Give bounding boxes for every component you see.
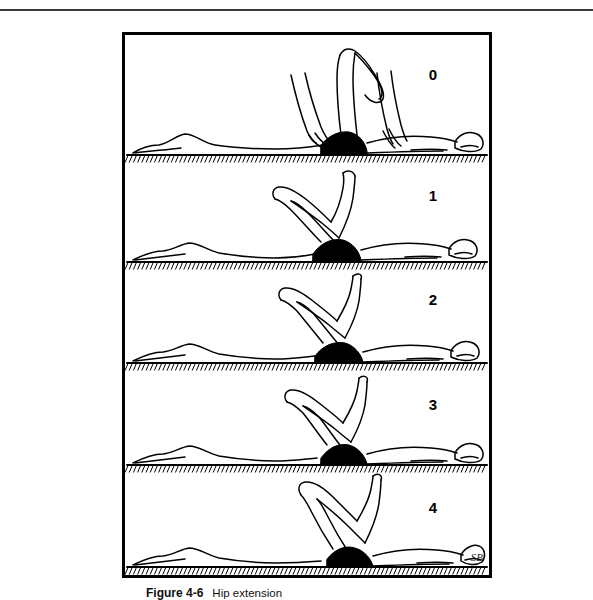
figure-panel-2: 2 xyxy=(125,273,489,373)
rating-label-2: 2 xyxy=(429,292,437,307)
figure-caption-number: Figure 4-6 xyxy=(146,586,203,600)
figure-caption: Figure 4-6Hip extension xyxy=(146,586,282,600)
floor-hatching xyxy=(125,466,485,473)
floor-hatching xyxy=(125,263,485,270)
floor-hatching xyxy=(125,156,485,163)
page-top-rule xyxy=(0,9,593,11)
rating-label-4: 4 xyxy=(429,500,437,515)
panel-4-illustration xyxy=(125,473,489,575)
floor-hatching xyxy=(125,568,485,575)
rating-label-1: 1 xyxy=(429,188,437,203)
figure-panel-1: 1 xyxy=(125,168,489,273)
figure-panel-4: 4 xyxy=(125,473,489,575)
figure-panel-0: 0 xyxy=(125,35,489,168)
rating-label-0: 0 xyxy=(429,67,437,82)
artist-signature: SB xyxy=(471,551,483,563)
rating-label-3: 3 xyxy=(429,397,437,412)
figure-frame: 0 xyxy=(122,32,492,578)
figure-panel-3: 3 xyxy=(125,373,489,473)
figure-caption-text: Hip extension xyxy=(212,587,282,599)
panel-2-illustration xyxy=(125,273,489,373)
panel-1-illustration xyxy=(125,168,489,273)
floor-hatching xyxy=(125,364,485,371)
panel-3-illustration xyxy=(125,373,489,473)
panel-0-illustration xyxy=(125,35,489,168)
